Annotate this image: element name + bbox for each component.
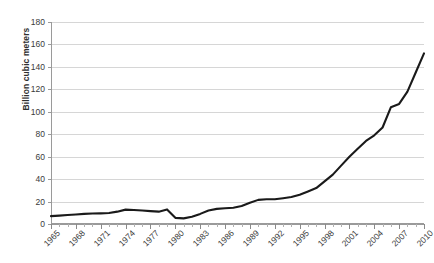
y-tick-label: 180 (21, 17, 45, 27)
x-tick-minor (84, 224, 85, 227)
x-tick-minor (366, 224, 367, 227)
x-tick-minor (109, 224, 110, 227)
x-tick-minor (291, 224, 292, 227)
series-svg (51, 22, 424, 224)
x-tick-major (175, 224, 176, 229)
x-tick-major (76, 224, 77, 229)
x-tick-minor (117, 224, 118, 227)
x-tick-major (126, 224, 127, 229)
x-tick-major (399, 224, 400, 229)
y-tick-label: 0 (21, 219, 45, 229)
y-tick-label: 120 (21, 84, 45, 94)
x-tick-major (101, 224, 102, 229)
y-tick-label: 20 (21, 197, 45, 207)
x-tick-major (325, 224, 326, 229)
x-tick-minor (184, 224, 185, 227)
x-tick-major (225, 224, 226, 229)
x-tick-minor (233, 224, 234, 227)
x-tick-minor (267, 224, 268, 227)
x-tick-major (349, 224, 350, 229)
x-tick-minor (167, 224, 168, 227)
x-tick-major (200, 224, 201, 229)
x-tick-major (300, 224, 301, 229)
y-tick-label: 100 (21, 107, 45, 117)
y-tick-label: 80 (21, 129, 45, 139)
x-tick-major (250, 224, 251, 229)
x-tick-minor (341, 224, 342, 227)
x-tick-minor (308, 224, 309, 227)
x-tick-minor (208, 224, 209, 227)
x-tick-minor (407, 224, 408, 227)
x-tick-major (275, 224, 276, 229)
x-tick-minor (142, 224, 143, 227)
x-tick-minor (68, 224, 69, 227)
x-tick-minor (59, 224, 60, 227)
x-tick-minor (242, 224, 243, 227)
x-tick-minor (258, 224, 259, 227)
x-tick-major (374, 224, 375, 229)
series-line-billion-cubic-meters (51, 53, 424, 218)
x-tick-major (51, 224, 52, 229)
x-tick-minor (134, 224, 135, 227)
plot-area (51, 22, 424, 224)
x-tick-minor (217, 224, 218, 227)
x-tick-minor (283, 224, 284, 227)
x-tick-minor (192, 224, 193, 227)
y-tick-label: 140 (21, 62, 45, 72)
gridline (51, 224, 424, 225)
line-chart: Billion cubic meters 0204060801001201401… (0, 0, 434, 263)
x-tick-minor (383, 224, 384, 227)
x-tick-minor (333, 224, 334, 227)
y-tick-label: 40 (21, 174, 45, 184)
y-tick-label: 160 (21, 39, 45, 49)
x-tick-major (424, 224, 425, 229)
x-tick-minor (159, 224, 160, 227)
x-tick-minor (391, 224, 392, 227)
x-tick-minor (92, 224, 93, 227)
x-tick-minor (358, 224, 359, 227)
y-tick-label: 60 (21, 152, 45, 162)
x-tick-major (150, 224, 151, 229)
x-tick-minor (416, 224, 417, 227)
x-tick-minor (316, 224, 317, 227)
